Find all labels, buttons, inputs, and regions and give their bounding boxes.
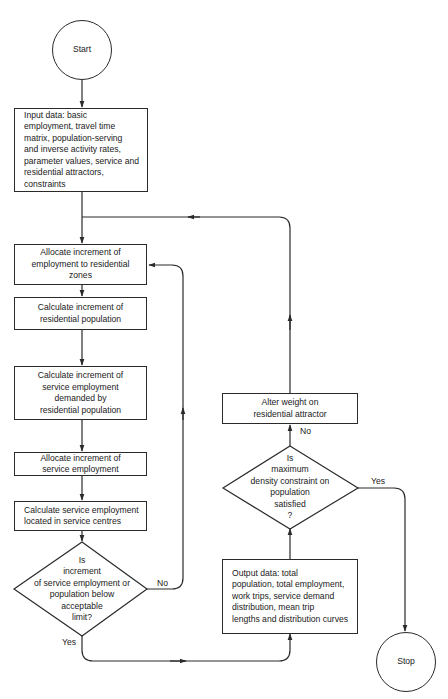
start-terminal: Start [52, 20, 112, 80]
decision-increment-label: Is increment of service employment or po… [34, 555, 130, 624]
alter-weight-label: Alter weight on residential attractor [253, 397, 326, 420]
decision-increment-text: Is increment of service employment or po… [28, 549, 136, 629]
allocate-employment-label: Allocate increment of employment to resi… [32, 247, 130, 282]
density-yes-label: Yes [371, 476, 385, 486]
calc-service-centres-box: Calculate service employment located in … [14, 501, 147, 531]
allocate-service-box: Allocate increment of service employment [14, 452, 147, 476]
stop-terminal: Stop [376, 632, 436, 692]
calc-service-demand-label: Calculate increment of service employmen… [38, 370, 124, 416]
calc-service-demand-box: Calculate increment of service employmen… [14, 366, 147, 420]
calc-service-centres-label: Calculate service employment located in … [24, 505, 139, 528]
allocate-service-label: Allocate increment of service employment [40, 453, 120, 476]
output-data-label: Output data: total population, total emp… [232, 568, 348, 626]
density-no-label: No [300, 426, 311, 436]
decision-density-label: Is maximum density constraint on populat… [251, 453, 330, 522]
decision-density-text: Is maximum density constraint on populat… [240, 451, 340, 523]
stop-label: Stop [397, 656, 415, 668]
increment-yes-label: Yes [62, 637, 76, 647]
calc-residential-box: Calculate increment of residential popul… [14, 297, 147, 330]
input-data-label: Input data: basic employment, travel tim… [24, 110, 141, 191]
start-label: Start [73, 44, 91, 56]
alter-weight-box: Alter weight on residential attractor [222, 393, 358, 424]
increment-no-label: No [157, 578, 168, 588]
input-data-box: Input data: basic employment, travel tim… [14, 108, 148, 192]
allocate-employment-box: Allocate increment of employment to resi… [14, 244, 147, 285]
calc-residential-label: Calculate increment of residential popul… [38, 302, 124, 325]
output-data-box: Output data: total population, total emp… [222, 559, 358, 634]
